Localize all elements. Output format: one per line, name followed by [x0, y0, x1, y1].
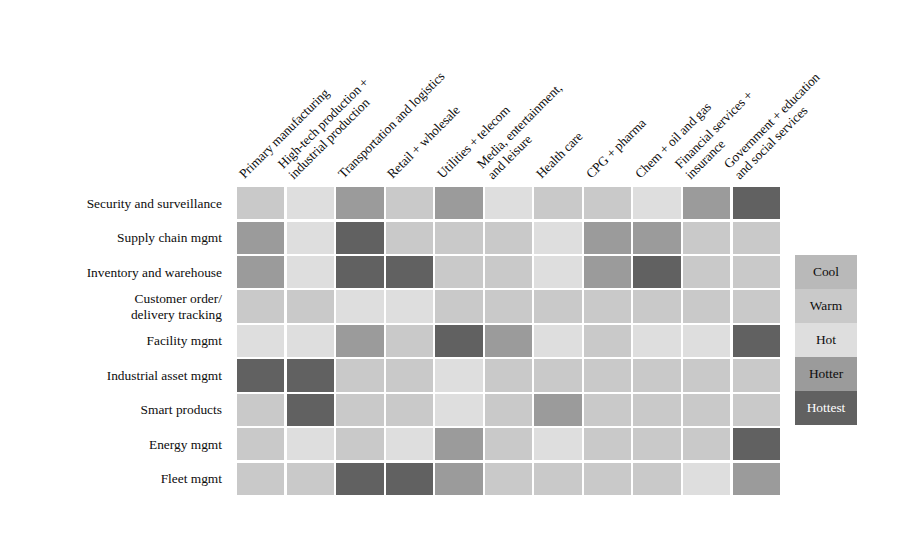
heatmap-cell	[485, 394, 532, 426]
row-label: Fleet mgmt	[0, 471, 222, 486]
heatmap-cell	[584, 222, 631, 254]
heatmap-cell	[287, 222, 334, 254]
heatmap-cell	[683, 256, 730, 288]
heatmap-cell	[336, 187, 383, 219]
heatmap-cell	[336, 463, 383, 495]
heatmap-cell	[336, 290, 383, 322]
heatmap-cell	[683, 290, 730, 322]
heatmap-cell	[733, 463, 780, 495]
heatmap-cell	[485, 428, 532, 460]
heatmap-cell	[386, 325, 433, 357]
heatmap-cell	[386, 256, 433, 288]
heatmap-cell	[287, 359, 334, 391]
heatmap-cell	[336, 256, 383, 288]
heatmap-cell	[386, 463, 433, 495]
heatmap-cell	[485, 463, 532, 495]
row-label: Inventory and warehouse	[0, 265, 222, 280]
row-label: Energy mgmt	[0, 437, 222, 452]
heatmap-cell	[534, 463, 581, 495]
heatmap-cell	[633, 463, 680, 495]
legend-label: Warm	[810, 298, 842, 314]
row-label-area: Security and surveillanceSupply chain mg…	[0, 186, 230, 496]
heatmap-cell	[534, 187, 581, 219]
heatmap-cell	[237, 359, 284, 391]
heatmap-cell	[435, 256, 482, 288]
heatmap-cell	[534, 290, 581, 322]
heatmap-cell	[386, 359, 433, 391]
heatmap-cell	[287, 256, 334, 288]
heatmap-cell	[237, 394, 284, 426]
legend-item: Hot	[795, 323, 857, 357]
heatmap-cell	[237, 187, 284, 219]
heatmap-cell	[733, 290, 780, 322]
legend-item: Cool	[795, 255, 857, 289]
heatmap-cell	[237, 325, 284, 357]
legend-item: Hotter	[795, 357, 857, 391]
heatmap-cell	[584, 394, 631, 426]
heatmap-cell	[534, 428, 581, 460]
heatmap-cell	[683, 325, 730, 357]
heatmap-cell	[683, 359, 730, 391]
heatmap-cell	[336, 325, 383, 357]
heatmap-cell	[733, 428, 780, 460]
heatmap-cell	[584, 290, 631, 322]
row-label: Industrial asset mgmt	[0, 368, 222, 383]
heatmap-cell	[633, 187, 680, 219]
heatmap-cell	[534, 394, 581, 426]
heatmap-cell	[435, 359, 482, 391]
heatmap-cell	[336, 222, 383, 254]
heatmap-cell	[336, 394, 383, 426]
row-label: Facility mgmt	[0, 333, 222, 348]
heatmap-cell	[683, 222, 730, 254]
heatmap-cell	[683, 187, 730, 219]
heatmap-cell	[435, 187, 482, 219]
heatmap-cell	[435, 428, 482, 460]
heatmap-cell	[237, 428, 284, 460]
column-label: Health care	[534, 130, 586, 182]
heatmap-cell	[534, 256, 581, 288]
heatmap-cell	[287, 394, 334, 426]
legend-item: Hottest	[795, 391, 857, 425]
heatmap-cell	[287, 428, 334, 460]
legend-label: Cool	[813, 264, 839, 280]
heatmap-cell	[633, 359, 680, 391]
heatmap-cell	[386, 290, 433, 322]
heatmap-cell	[633, 325, 680, 357]
heatmap-cell	[336, 428, 383, 460]
heatmap-cell	[584, 428, 631, 460]
heatmap-cell	[633, 394, 680, 426]
heatmap-grid	[236, 186, 781, 496]
legend-label: Hotter	[809, 366, 843, 382]
legend: CoolWarmHotHotterHottest	[795, 255, 857, 425]
heatmap-cell	[485, 222, 532, 254]
heatmap-cell	[733, 256, 780, 288]
heatmap-cell	[733, 359, 780, 391]
heatmap-cell	[237, 463, 284, 495]
heatmap-cell	[287, 325, 334, 357]
heatmap-cell	[683, 394, 730, 426]
column-header-area: Primary manufacturingHigh-tech productio…	[236, 0, 796, 186]
heatmap-cell	[386, 428, 433, 460]
heatmap-cell	[683, 463, 730, 495]
heatmap-cell	[584, 463, 631, 495]
heatmap-cell	[485, 187, 532, 219]
heatmap-cell	[237, 256, 284, 288]
heatmap-cell	[485, 325, 532, 357]
heatmap-cell	[435, 290, 482, 322]
heatmap-cell	[733, 187, 780, 219]
heatmap-cell	[237, 222, 284, 254]
heatmap-cell	[733, 325, 780, 357]
heatmap-cell	[386, 187, 433, 219]
heatmap-cell	[336, 359, 383, 391]
heatmap-cell	[733, 222, 780, 254]
heatmap-cell	[584, 325, 631, 357]
heatmap-cell	[485, 359, 532, 391]
heatmap-cell	[584, 256, 631, 288]
heatmap-cell	[287, 290, 334, 322]
heatmap-cell	[534, 325, 581, 357]
heatmap-cell	[485, 290, 532, 322]
row-label: Customer order/ delivery tracking	[0, 291, 222, 321]
heatmap-cell	[435, 222, 482, 254]
heatmap-cell	[287, 463, 334, 495]
heatmap-cell	[435, 463, 482, 495]
